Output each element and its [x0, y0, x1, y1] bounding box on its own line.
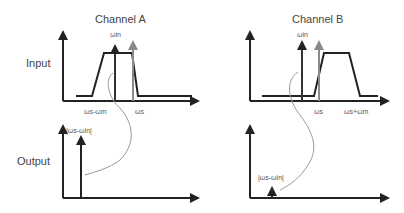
channel-a-tick-high: ωs [135, 108, 144, 115]
channel-b-tick-high: ωs+ωm [344, 108, 368, 115]
channel-b-mapping-curve [280, 72, 314, 190]
channel-a-title: Channel A [95, 14, 146, 25]
channel-a-mapping-curve [85, 73, 131, 175]
channel-a-output-plot [63, 126, 198, 198]
channel-a-input-plot [63, 32, 198, 101]
channel-b-tick-low: ωs [314, 108, 323, 115]
channel-b-carrier-label: ωin [297, 31, 308, 38]
channel-a-tick-low: ωs-ωm [84, 108, 107, 115]
channel-b-output-plot [250, 126, 388, 198]
channel-b-beat-label: |ωs-ωin| [258, 174, 284, 181]
channel-b-title: Channel B [292, 14, 343, 25]
channel-a-carrier-label: ωin [110, 31, 121, 38]
row-label-input: Input [26, 58, 50, 69]
channel-a-beat-label: |ωs-ωin| [66, 127, 92, 134]
row-label-output: Output [17, 156, 50, 167]
diagram-canvas [0, 0, 404, 213]
channel-b-input-plot [250, 32, 388, 101]
